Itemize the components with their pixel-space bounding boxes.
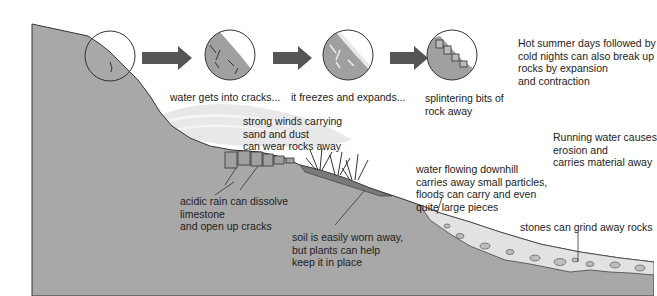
soil-label: soil is easily worn away, but plants can… <box>292 231 403 269</box>
stones-label: stones can grind away rocks <box>520 221 652 234</box>
temperature-label: Hot summer days followed by cold nights … <box>518 37 656 87</box>
cracked-rock-circle <box>205 30 256 82</box>
acid-rain-label: acidic rain can dissolve limestone and o… <box>180 195 288 233</box>
step-caption-3: splintering bits of rock away <box>425 92 504 117</box>
arrow-icon <box>142 46 428 70</box>
wind-label: strong winds carrying sand and dust can … <box>243 115 342 153</box>
splintered-rock-circle <box>427 30 478 82</box>
ice-filled-crack-circle <box>323 30 374 82</box>
water-flow-label: water flowing downhill carries away smal… <box>416 163 547 213</box>
step-caption-1: water gets into cracks... <box>170 91 280 104</box>
step-caption-2: it freezes and expands... <box>291 91 405 104</box>
running-water-label: Running water causes erosion and carries… <box>553 131 657 169</box>
